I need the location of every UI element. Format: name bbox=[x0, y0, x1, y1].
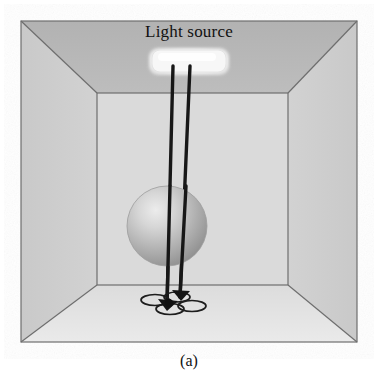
figure-caption: (a) bbox=[0, 352, 378, 370]
light-fixture-highlight bbox=[158, 53, 216, 61]
light-source-label: Light source bbox=[0, 22, 378, 42]
room-scene-illustration bbox=[0, 0, 378, 388]
drone-hub bbox=[165, 299, 173, 307]
figure-container: Light source (a) bbox=[0, 0, 378, 388]
